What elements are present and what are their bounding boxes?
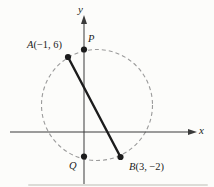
x-axis-label: x <box>199 125 204 136</box>
y-axis-label: y <box>78 4 83 15</box>
point-b-label: B(3, −2) <box>129 161 164 172</box>
point-p-label: P <box>88 33 94 44</box>
point-a-dot <box>65 54 71 60</box>
point-p-dot <box>81 46 87 52</box>
figure-canvas <box>0 0 214 187</box>
point-b-dot <box>117 154 123 160</box>
point-q-dot <box>81 153 87 159</box>
dashed-circle <box>42 50 153 161</box>
point-a-label: A(−1, 6) <box>27 39 62 50</box>
point-a-coords: (−1, 6) <box>33 39 62 50</box>
point-b-coords: (3, −2) <box>135 161 164 172</box>
scan-artifact <box>28 184 208 186</box>
geometry-figure: y x A(−1, 6) P Q B(3, −2) <box>0 0 214 187</box>
point-p-letter: P <box>88 33 94 44</box>
x-axis-arrowhead-icon <box>188 129 197 135</box>
point-q-label: Q <box>69 160 77 171</box>
y-axis-arrowhead-icon <box>81 15 87 24</box>
segment-ab <box>68 57 121 157</box>
point-q-letter: Q <box>69 160 77 171</box>
